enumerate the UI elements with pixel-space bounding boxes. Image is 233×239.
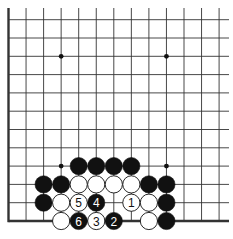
- move-number: 4: [93, 196, 100, 210]
- white-stone: [105, 176, 122, 193]
- white-stone-icon: [53, 194, 70, 211]
- move-number: 3: [93, 215, 100, 229]
- black-stone: [158, 194, 175, 211]
- go-board: 541632: [0, 0, 233, 239]
- move-number: 5: [75, 196, 82, 210]
- black-stone-icon: [158, 212, 175, 229]
- move-number: 2: [110, 215, 117, 229]
- black-stone: [158, 176, 175, 193]
- white-stone: [123, 176, 140, 193]
- white-stone-icon: [140, 194, 157, 211]
- white-stone-1: 1: [123, 194, 140, 211]
- black-stone: [140, 176, 157, 193]
- black-stone-icon: [53, 176, 70, 193]
- black-stone-4: 4: [88, 194, 105, 211]
- white-stone: [140, 212, 157, 229]
- move-number: 6: [75, 215, 82, 229]
- black-stone-icon: [105, 158, 122, 175]
- black-stone-icon: [140, 176, 157, 193]
- white-stone-icon: [53, 212, 70, 229]
- white-stone: [70, 176, 87, 193]
- black-stone-icon: [88, 158, 105, 175]
- white-stone: [53, 194, 70, 211]
- hoshi-point-icon: [59, 164, 64, 169]
- black-stone: [35, 176, 52, 193]
- stones-layer: 541632: [35, 158, 175, 230]
- black-stone-icon: [158, 194, 175, 211]
- hoshi-point-icon: [164, 164, 169, 169]
- black-stone-icon: [70, 158, 87, 175]
- hoshi-point-icon: [59, 54, 64, 59]
- white-stone: [53, 212, 70, 229]
- white-stone: [140, 194, 157, 211]
- black-stone: [105, 158, 122, 175]
- black-stone: [35, 194, 52, 211]
- move-number: 1: [128, 196, 135, 210]
- black-stone: [53, 176, 70, 193]
- black-stone: [70, 158, 87, 175]
- black-stone-2: 2: [105, 212, 122, 229]
- white-stone-3: 3: [88, 212, 105, 229]
- white-stone-icon: [88, 176, 105, 193]
- black-stone: [123, 158, 140, 175]
- black-stone-icon: [123, 158, 140, 175]
- black-stone-icon: [35, 194, 52, 211]
- white-stone-icon: [70, 176, 87, 193]
- white-stone-icon: [140, 212, 157, 229]
- black-stone: [158, 212, 175, 229]
- white-stone-5: 5: [70, 194, 87, 211]
- black-stone-icon: [158, 176, 175, 193]
- hoshi-point-icon: [164, 54, 169, 59]
- black-stone-6: 6: [70, 212, 87, 229]
- white-stone: [88, 176, 105, 193]
- black-stone-icon: [35, 176, 52, 193]
- white-stone-icon: [105, 176, 122, 193]
- black-stone: [88, 158, 105, 175]
- white-stone-icon: [123, 176, 140, 193]
